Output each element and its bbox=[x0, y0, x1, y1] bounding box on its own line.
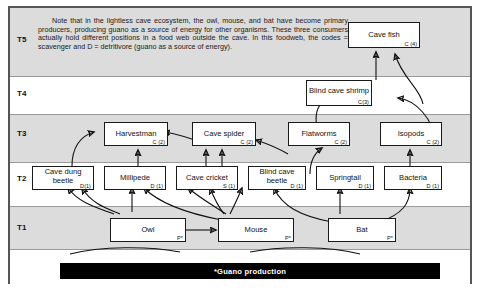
node-blind-cave-shrimp-code: C(3) bbox=[358, 99, 369, 105]
tier-label-t2: T2 bbox=[17, 174, 26, 183]
tier-label-t1: T1 bbox=[17, 223, 26, 232]
node-blind-cave-beetle-code: D (1) bbox=[291, 183, 303, 189]
node-springtail-code: D (1) bbox=[359, 183, 371, 189]
node-cave-dung-beetle-code: D(1) bbox=[80, 183, 91, 189]
tier-divider-t5-t4 bbox=[10, 76, 470, 77]
node-millipede-label: Millipede bbox=[118, 174, 152, 183]
node-cave-fish-code: C (4) bbox=[405, 41, 417, 47]
node-cave-fish-label: Cave fish bbox=[366, 31, 402, 40]
node-cave-cricket-code: S (1) bbox=[223, 183, 235, 189]
node-cave-spider-label: Cave spider bbox=[202, 130, 247, 139]
node-cave-cricket-label: Cave cricket bbox=[184, 174, 230, 183]
tier-divider-t4-t3 bbox=[10, 114, 470, 115]
tier-divider-t2-t1 bbox=[10, 206, 470, 207]
node-bacteria-label: Bacteria bbox=[397, 174, 429, 183]
node-millipede[interactable]: Millipede D (1) bbox=[104, 166, 166, 190]
node-blind-cave-beetle[interactable]: Blind cave beetle D (1) bbox=[248, 166, 306, 190]
node-cave-dung-beetle[interactable]: Cave dung beetle D(1) bbox=[32, 166, 94, 190]
tier-label-t5: T5 bbox=[17, 35, 26, 44]
node-bat[interactable]: Bat P* bbox=[328, 218, 396, 242]
foodweb-diagram: T5 T4 T3 T2 T1 Note that in the lightles… bbox=[0, 0, 480, 292]
node-blind-cave-shrimp[interactable]: Blind cave shrimp C(3) bbox=[306, 80, 372, 106]
explanatory-note: Note that in the lightless cave ecosyste… bbox=[38, 17, 348, 51]
node-mouse-code: P* bbox=[285, 235, 291, 241]
node-springtail[interactable]: Springtail D (1) bbox=[316, 166, 374, 190]
node-harvestman-code: C (2) bbox=[153, 139, 165, 145]
node-mouse[interactable]: Mouse P* bbox=[218, 218, 294, 242]
tier-divider-t3-t2 bbox=[10, 162, 470, 163]
node-isopods[interactable]: Isopods C (2) bbox=[380, 122, 442, 146]
node-isopods-label: Isopods bbox=[396, 130, 427, 139]
node-harvestman[interactable]: Harvestman C (2) bbox=[104, 122, 168, 146]
node-owl-code: P* bbox=[177, 235, 183, 241]
node-owl-label: Owl bbox=[139, 226, 156, 235]
node-cave-spider-code: C (2) bbox=[241, 139, 253, 145]
node-bacteria[interactable]: Bacteria D (1) bbox=[384, 166, 442, 190]
node-owl[interactable]: Owl P* bbox=[110, 218, 186, 242]
node-flatworms[interactable]: Flatworms C (2) bbox=[288, 122, 350, 146]
node-bat-code: P* bbox=[387, 235, 393, 241]
guano-production-bar: *Guano production bbox=[60, 263, 440, 279]
node-cave-spider[interactable]: Cave spider C (2) bbox=[192, 122, 256, 146]
node-flatworms-code: C (2) bbox=[335, 139, 347, 145]
guano-production-label: *Guano production bbox=[214, 267, 286, 276]
node-cave-cricket[interactable]: Cave cricket S (1) bbox=[176, 166, 238, 190]
node-springtail-label: Springtail bbox=[327, 174, 363, 183]
diagram-frame: T5 T4 T3 T2 T1 Note that in the lightles… bbox=[8, 6, 472, 284]
tier-label-t3: T3 bbox=[17, 129, 26, 138]
tier-divider-t1-guano bbox=[10, 249, 470, 250]
node-bacteria-code: D (1) bbox=[427, 183, 439, 189]
tier-label-t4: T4 bbox=[17, 89, 26, 98]
node-isopods-code: C (2) bbox=[427, 139, 439, 145]
node-cave-fish[interactable]: Cave fish C (4) bbox=[348, 22, 420, 48]
tier-band-t4 bbox=[10, 76, 470, 114]
node-flatworms-label: Flatworms bbox=[299, 130, 338, 139]
node-blind-cave-shrimp-label: Blind cave shrimp bbox=[307, 87, 371, 99]
node-mouse-label: Mouse bbox=[243, 226, 270, 235]
node-bat-label: Bat bbox=[354, 226, 369, 235]
node-harvestman-label: Harvestman bbox=[114, 130, 159, 139]
node-millipede-code: D (1) bbox=[151, 183, 163, 189]
